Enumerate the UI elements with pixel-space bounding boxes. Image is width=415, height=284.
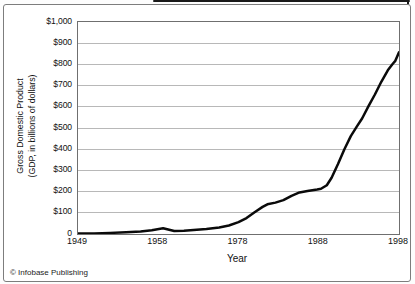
x-tick-label: 1988 <box>308 236 328 247</box>
plot-area <box>77 21 400 235</box>
y-tick-label: $1,000 <box>0 16 72 27</box>
y-tick-label: $600 <box>0 100 72 111</box>
y-tick-label: $800 <box>0 58 72 69</box>
y-tick-label: $900 <box>0 37 72 48</box>
gridlines <box>78 43 399 213</box>
gdp-data-line <box>78 52 399 233</box>
y-tick-label: $500 <box>0 122 72 133</box>
y-tick-label: $200 <box>0 185 72 196</box>
x-tick-label: 1998 <box>388 236 408 247</box>
x-tick-label: 1958 <box>147 236 167 247</box>
gdp-line-chart <box>78 22 399 234</box>
x-tick-label: 1949 <box>67 236 87 247</box>
y-tick-label: $700 <box>0 79 72 90</box>
y-tick-label: $100 <box>0 206 72 217</box>
y-tick-label: 0 <box>0 228 72 239</box>
y-tick-label: $300 <box>0 164 72 175</box>
x-tick-label: 1978 <box>227 236 247 247</box>
x-axis-title: Year <box>227 253 247 265</box>
y-tick-label: $400 <box>0 143 72 154</box>
copyright-notice: © Infobase Publishing <box>10 268 88 278</box>
cropped-title-line <box>153 0 410 2</box>
